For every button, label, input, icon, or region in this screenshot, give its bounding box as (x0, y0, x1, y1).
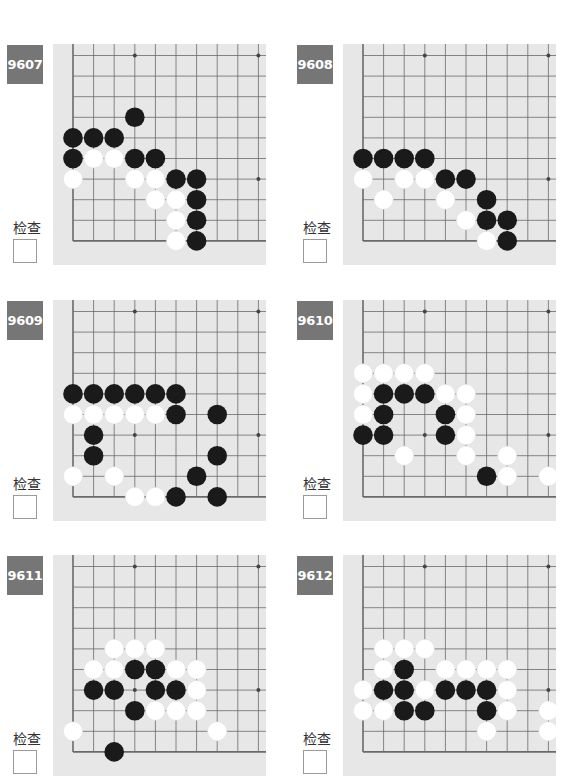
white-stone (415, 681, 434, 700)
black-stone (477, 211, 497, 231)
check-label: 检查 (12, 217, 42, 237)
black-stone (125, 660, 145, 680)
check-checkbox[interactable] (13, 239, 37, 263)
white-stone (456, 426, 475, 445)
problem-9609: 9609 检查 (7, 300, 287, 530)
white-stone (84, 149, 103, 168)
white-stone (146, 487, 165, 506)
star-point (423, 54, 427, 58)
problem-9611: 9611 检查 (7, 555, 287, 782)
white-stone (353, 364, 372, 383)
problem-number-label: 9610 (297, 301, 333, 340)
white-stone (105, 405, 124, 424)
white-stone (105, 639, 124, 658)
check-label: 检查 (302, 728, 332, 748)
white-stone (125, 639, 144, 658)
white-stone (63, 467, 82, 486)
white-stone (456, 211, 475, 230)
white-stone (395, 364, 414, 383)
white-stone (125, 487, 144, 506)
black-stone (415, 149, 435, 169)
star-point (546, 177, 550, 181)
white-stone (353, 405, 372, 424)
black-stone (166, 680, 186, 700)
white-stone (105, 467, 124, 486)
check-checkbox[interactable] (303, 495, 327, 519)
check-label: 检查 (12, 473, 42, 493)
star-point (133, 565, 137, 569)
check-checkbox[interactable] (303, 239, 327, 263)
star-point (256, 433, 260, 437)
white-stone (498, 660, 517, 679)
black-stone (146, 660, 166, 680)
check-checkbox[interactable] (303, 750, 327, 774)
black-stone (125, 384, 145, 404)
problem-9612: 9612 检查 (297, 555, 577, 782)
black-stone (207, 446, 227, 466)
star-point (256, 688, 260, 692)
white-stone (166, 231, 185, 250)
go-board (343, 300, 556, 521)
check-label: 检查 (302, 473, 332, 493)
black-stone (104, 128, 124, 148)
white-stone (125, 405, 144, 424)
black-stone (374, 384, 394, 404)
white-stone (456, 446, 475, 465)
white-stone (456, 384, 475, 403)
black-stone (187, 467, 207, 487)
star-point (423, 310, 427, 314)
black-stone (187, 231, 207, 251)
black-stone (415, 701, 435, 721)
white-stone (63, 170, 82, 189)
white-stone (498, 681, 517, 700)
white-stone (436, 384, 455, 403)
white-stone (208, 722, 227, 741)
go-board (53, 300, 266, 521)
white-stone (63, 722, 82, 741)
check-checkbox[interactable] (13, 750, 37, 774)
black-stone (125, 701, 145, 721)
white-stone (539, 701, 556, 720)
white-stone (415, 639, 434, 658)
white-stone (125, 170, 144, 189)
black-stone (436, 680, 456, 700)
white-stone (353, 701, 372, 720)
white-stone (146, 405, 165, 424)
black-stone (207, 487, 227, 507)
problem-number-label: 9612 (297, 556, 333, 595)
black-stone (146, 149, 166, 169)
white-stone (84, 660, 103, 679)
black-stone (104, 384, 124, 404)
white-stone (436, 190, 455, 209)
check-checkbox[interactable] (13, 495, 37, 519)
star-point (133, 433, 137, 437)
white-stone (353, 170, 372, 189)
black-stone (456, 169, 476, 189)
star-point (133, 310, 137, 314)
white-stone (84, 405, 103, 424)
go-board (343, 44, 556, 265)
star-point (423, 433, 427, 437)
star-point (546, 433, 550, 437)
star-point (546, 310, 550, 314)
black-stone (166, 405, 186, 425)
white-stone (456, 405, 475, 424)
problem-9610: 9610 检查 (297, 300, 577, 530)
black-stone (353, 425, 373, 445)
black-stone (84, 425, 104, 445)
white-stone (477, 660, 496, 679)
black-stone (497, 231, 517, 251)
black-stone (394, 701, 414, 721)
star-point (133, 54, 137, 58)
go-board (53, 44, 266, 265)
black-stone (394, 680, 414, 700)
black-stone (166, 169, 186, 189)
black-stone (63, 128, 83, 148)
white-stone (395, 639, 414, 658)
black-stone (374, 680, 394, 700)
white-stone (146, 170, 165, 189)
black-stone (84, 384, 104, 404)
black-stone (63, 384, 83, 404)
white-stone (374, 701, 393, 720)
white-stone (415, 364, 434, 383)
